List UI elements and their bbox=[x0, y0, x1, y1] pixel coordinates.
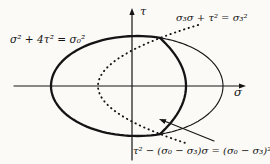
ellipse-equation-label: σ² + 4τ² = σ₀² bbox=[10, 33, 85, 45]
tension-parabola-equation-label: σ₃σ + τ² = σ₃² bbox=[176, 12, 248, 23]
compression-parabola-equation-label: τ² − (σ₀ − σ₃)σ = (σ₀ − σ₃)² bbox=[133, 145, 270, 156]
tau-axis-label: τ bbox=[140, 4, 147, 18]
sigma-axis-label: σ bbox=[234, 85, 243, 99]
tau-axis-arrowhead bbox=[129, 8, 134, 15]
curves-layer bbox=[14, 8, 246, 160]
compression-parabola-dotted-curve bbox=[98, 25, 198, 143]
equation-leader-arrowhead bbox=[159, 119, 166, 124]
diagram-svg: σ² + 4τ² = σ₀² σ₃σ + τ² = σ₃² τ² − (σ₀ −… bbox=[0, 0, 270, 164]
figure-canvas: σ² + 4τ² = σ₀² σ₃σ + τ² = σ₃² τ² − (σ₀ −… bbox=[0, 0, 270, 164]
